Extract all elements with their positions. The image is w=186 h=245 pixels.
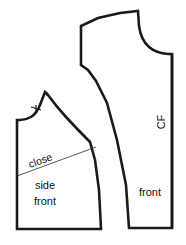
label-side-front-second-line: front [34, 195, 56, 207]
sewing-pattern-diagram: close side front front CF [0, 0, 186, 245]
label-side: side [35, 179, 55, 191]
pattern-drawing-canvas: close side front front CF [0, 0, 186, 245]
label-front: front [139, 186, 161, 198]
label-center-front: CF [155, 114, 167, 129]
